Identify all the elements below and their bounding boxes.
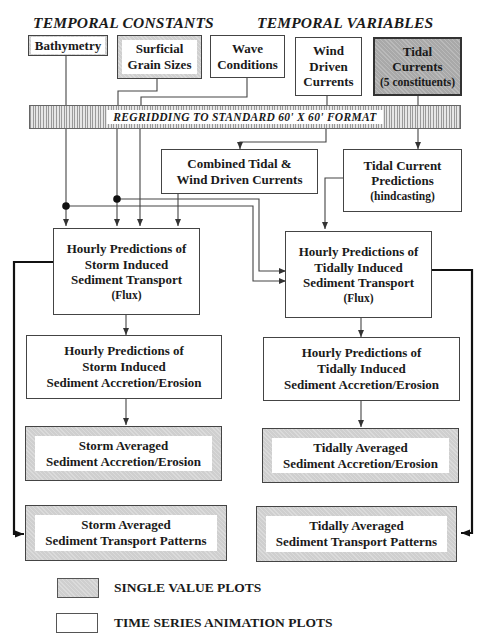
storm-avg-accretion-line-2: Sediment Accretion/Erosion: [37, 454, 210, 470]
storm-transport-line-4: (Flux): [111, 288, 141, 302]
tidal-averaged-transport-box: Tidally Averaged Sediment Transport Patt…: [256, 506, 457, 562]
storm-accretion-box: Hourly Predictions of Storm Induced Sedi…: [26, 335, 222, 399]
wave-conditions-line-1: Wave: [232, 41, 263, 57]
tidal-avg-accretion-line-1: Tidally Averaged: [274, 440, 447, 456]
storm-transport-line-2: Storm Induced: [85, 257, 168, 273]
tidal-transport-line-4: (Flux): [343, 291, 373, 305]
grain-sizes-line-2: Grain Sizes: [123, 57, 196, 73]
wind-currents-line-2: Driven: [309, 59, 347, 75]
regridding-bar: REGRIDDING TO STANDARD 60' X 60' FORMAT: [29, 105, 461, 129]
tidal-predictions-box: Tidal Current Predictions (hindcasting): [343, 149, 462, 212]
legend-single-value-label: SINGLE VALUE PLOTS: [114, 580, 261, 596]
tidal-currents-line-2: Currents: [392, 59, 442, 75]
grain-sizes-box: Surficial Grain Sizes: [117, 35, 202, 79]
storm-averaged-transport-box: Storm Averaged Sediment Transport Patter…: [25, 505, 227, 561]
storm-transport-box: Hourly Predictions of Storm Induced Sedi…: [53, 228, 200, 315]
tidal-averaged-accretion-box: Tidally Averaged Sediment Accretion/Eros…: [262, 428, 459, 483]
storm-accretion-line-2: Storm Induced: [82, 359, 165, 375]
storm-avg-accretion-line-1: Storm Averaged: [37, 438, 210, 454]
wind-currents-line-1: Wind: [313, 43, 344, 59]
storm-avg-transport-line-2: Sediment Transport Patterns: [37, 533, 215, 549]
tidal-currents-box: Tidal Currents (5 constituents): [373, 37, 462, 96]
tidal-accretion-line-3: Sediment Accretion/Erosion: [284, 377, 439, 393]
tidal-predictions-line-1: Tidal Current: [364, 158, 442, 174]
tidal-accretion-line-1: Hourly Predictions of: [302, 345, 422, 361]
wave-conditions-line-2: Conditions: [217, 57, 278, 73]
tidal-avg-accretion-line-2: Sediment Accretion/Erosion: [274, 456, 447, 472]
regridding-label: REGRIDDING TO STANDARD 60' X 60' FORMAT: [107, 110, 382, 124]
storm-averaged-accretion-box: Storm Averaged Sediment Accretion/Erosio…: [25, 426, 222, 481]
tidal-predictions-line-2: Predictions: [371, 173, 434, 189]
tidal-accretion-box: Hourly Predictions of Tidally Induced Se…: [263, 337, 460, 401]
grain-sizes-line-1: Surficial: [123, 41, 196, 57]
storm-transport-line-3: Sediment Transport: [71, 272, 182, 288]
wind-currents-box: Wind Driven Currents: [295, 37, 362, 96]
legend-time-series-label: TIME SERIES ANIMATION PLOTS: [114, 615, 332, 631]
legend-single-value-swatch: [57, 578, 99, 598]
tidal-avg-transport-line-2: Sediment Transport Patterns: [268, 534, 445, 550]
temporal-constants-header: TEMPORAL CONSTANTS: [33, 14, 214, 32]
tidal-accretion-line-2: Tidally Induced: [317, 361, 405, 377]
storm-transport-line-1: Hourly Predictions of: [67, 241, 187, 257]
tidal-avg-transport-line-1: Tidally Averaged: [268, 518, 445, 534]
temporal-variables-header: TEMPORAL VARIABLES: [257, 14, 433, 32]
storm-accretion-line-1: Hourly Predictions of: [64, 343, 184, 359]
combined-line-2: Wind Driven Currents: [177, 172, 303, 188]
tidal-currents-line-3: (5 constituents): [380, 75, 455, 89]
wind-currents-line-3: Currents: [303, 74, 353, 90]
tidal-transport-line-3: Sediment Transport: [303, 275, 414, 291]
combined-line-1: Combined Tidal &: [187, 156, 291, 172]
tidal-transport-line-2: Tidally Induced: [314, 260, 402, 276]
wave-conditions-box: Wave Conditions: [210, 35, 285, 78]
legend-time-series-swatch: [56, 613, 98, 633]
storm-accretion-line-3: Sediment Accretion/Erosion: [46, 375, 201, 391]
combined-currents-box: Combined Tidal & Wind Driven Currents: [161, 149, 318, 194]
storm-avg-transport-line-1: Storm Averaged: [37, 517, 215, 533]
bathymetry-box: Bathymetry: [28, 35, 108, 56]
tidal-transport-line-1: Hourly Predictions of: [299, 244, 419, 260]
bathymetry-label: Bathymetry: [31, 37, 105, 55]
tidal-predictions-line-3: (hindcasting): [370, 189, 435, 203]
tidal-currents-line-1: Tidal: [403, 44, 432, 60]
tidal-transport-box: Hourly Predictions of Tidally Induced Se…: [285, 231, 432, 318]
